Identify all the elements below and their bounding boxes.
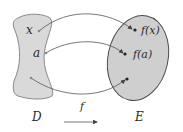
label-x: x bbox=[26, 23, 33, 37]
function-mapping-diagram: x a f(x) f(a) D E f bbox=[0, 0, 183, 132]
point-fa bbox=[123, 52, 126, 55]
mapping-arrow-x bbox=[39, 14, 132, 31]
point-f3 bbox=[125, 77, 128, 80]
point-a bbox=[45, 52, 48, 55]
label-fa: f(a) bbox=[132, 48, 152, 61]
label-fx: f(x) bbox=[140, 24, 160, 37]
label-E: E bbox=[134, 110, 144, 124]
label-D: D bbox=[31, 110, 42, 124]
label-a: a bbox=[33, 46, 40, 60]
point-x bbox=[38, 30, 41, 33]
label-f: f bbox=[79, 100, 86, 113]
point-3 bbox=[30, 77, 33, 80]
point-fx bbox=[133, 28, 136, 31]
